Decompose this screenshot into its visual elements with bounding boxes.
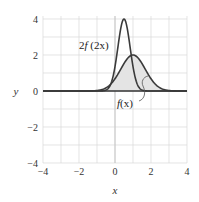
x-axis-label: x	[112, 184, 118, 196]
y-tick-label: −4	[27, 158, 38, 169]
y-tick-label: 0	[33, 86, 38, 97]
x-tick-labels: −4−2024	[38, 166, 190, 177]
y-tick-label: 4	[33, 14, 38, 25]
x-tick-label: −2	[74, 166, 85, 177]
y-tick-label: 2	[33, 50, 38, 61]
chart: −4−2024 −4−2024 y x 2f (2x) f(x)	[0, 0, 199, 202]
curve-label-f: f(x)	[117, 97, 133, 110]
curve-label-2f2x: 2f (2x)	[79, 39, 109, 52]
x-tick-label: −4	[38, 166, 49, 177]
y-tick-labels: −4−2024	[27, 14, 38, 169]
x-tick-label: 0	[113, 166, 118, 177]
y-axis-label: y	[13, 85, 19, 97]
x-tick-label: 4	[185, 166, 190, 177]
y-tick-label: −2	[27, 122, 38, 133]
x-tick-label: 2	[149, 166, 154, 177]
